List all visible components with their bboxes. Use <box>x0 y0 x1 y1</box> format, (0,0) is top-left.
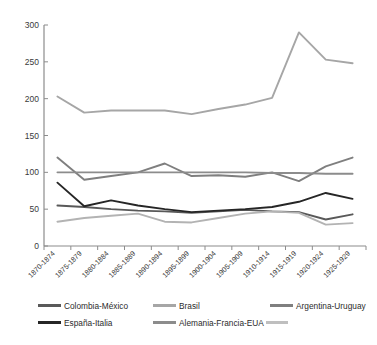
x-axis-tick-label: 1905-1909 <box>214 249 245 280</box>
y-axis-tick-label: 0 <box>34 241 39 251</box>
legend-label-espana-italia: España-Italia <box>64 318 112 328</box>
legend-item-argentina-uruguay[interactable]: Argentina-Uruguay <box>270 301 366 311</box>
series-line-1 <box>57 32 352 114</box>
legend-item-brasil[interactable]: Brasil <box>153 301 270 311</box>
line-chart-svg: 050100150200250300 1870-18741875-1879188… <box>0 0 377 292</box>
x-axis-tick-label: 1900-1904 <box>187 249 218 280</box>
x-axis-tick-label: 1920-1924 <box>294 249 325 280</box>
legend-swatch-alemania-francia-eua <box>153 321 176 324</box>
y-axis-tick-label: 50 <box>30 204 40 214</box>
x-axis-tick-labels: 1870-18741875-18791880-18841885-18891890… <box>26 249 352 280</box>
x-axis-tick-label: 1925-1929 <box>321 249 352 280</box>
legend-row-2: España-Italia Alemania-Francia-EUA <box>0 314 377 331</box>
y-axis-tick-label: 250 <box>25 57 39 67</box>
x-axis-tick-label: 1880-1884 <box>80 249 111 280</box>
y-axis-tick-labels: 050100150200250300 <box>25 20 39 251</box>
x-axis-tick-label: 1885-1889 <box>107 249 138 280</box>
legend-label-colombia-mexico: Colombia-México <box>64 301 128 311</box>
x-axis-tick-label: 1910-1914 <box>241 249 272 280</box>
x-axis-tick-label: 1915-1919 <box>268 249 299 280</box>
series-line-4 <box>57 172 352 173</box>
legend-label-argentina-uruguay: Argentina-Uruguay <box>296 301 366 311</box>
legend-swatch-espana-italia <box>38 321 61 324</box>
x-axis-tick-label: 1890-1894 <box>133 249 164 280</box>
legend-item-alemania-francia-eua[interactable]: Alemania-Francia-EUA <box>153 318 288 328</box>
x-axis-tick-label: 1875-1879 <box>53 249 84 280</box>
y-axis-tick-label: 150 <box>25 131 39 141</box>
chart-legend: Colombia-México Brasil Argentina-Uruguay… <box>0 291 377 345</box>
legend-swatch-colombia-mexico <box>38 304 61 307</box>
series-line-5 <box>57 211 352 224</box>
legend-row-1: Colombia-México Brasil Argentina-Uruguay <box>0 297 377 314</box>
legend-item-colombia-mexico[interactable]: Colombia-México <box>38 301 153 311</box>
chart-container: 050100150200250300 1870-18741875-1879188… <box>0 0 377 345</box>
series-lines <box>57 32 352 224</box>
y-axis-tick-label: 300 <box>25 20 39 30</box>
legend-item-espana-italia[interactable]: España-Italia <box>38 318 153 328</box>
legend-label-brasil: Brasil <box>179 301 200 311</box>
series-line-2 <box>57 158 352 182</box>
y-axis-tick-label: 200 <box>25 94 39 104</box>
legend-swatch-brasil <box>153 304 176 307</box>
x-axis-tick-label: 1870-1874 <box>26 249 57 280</box>
y-axis-tick-label: 100 <box>25 167 39 177</box>
x-axis-tick-label: 1895-1899 <box>160 249 191 280</box>
legend-trailer-swatch <box>266 321 288 324</box>
legend-label-alemania-francia-eua: Alemania-Francia-EUA <box>179 318 264 328</box>
legend-swatch-argentina-uruguay <box>270 304 293 307</box>
plot-area: 050100150200250300 1870-18741875-1879188… <box>0 0 377 292</box>
